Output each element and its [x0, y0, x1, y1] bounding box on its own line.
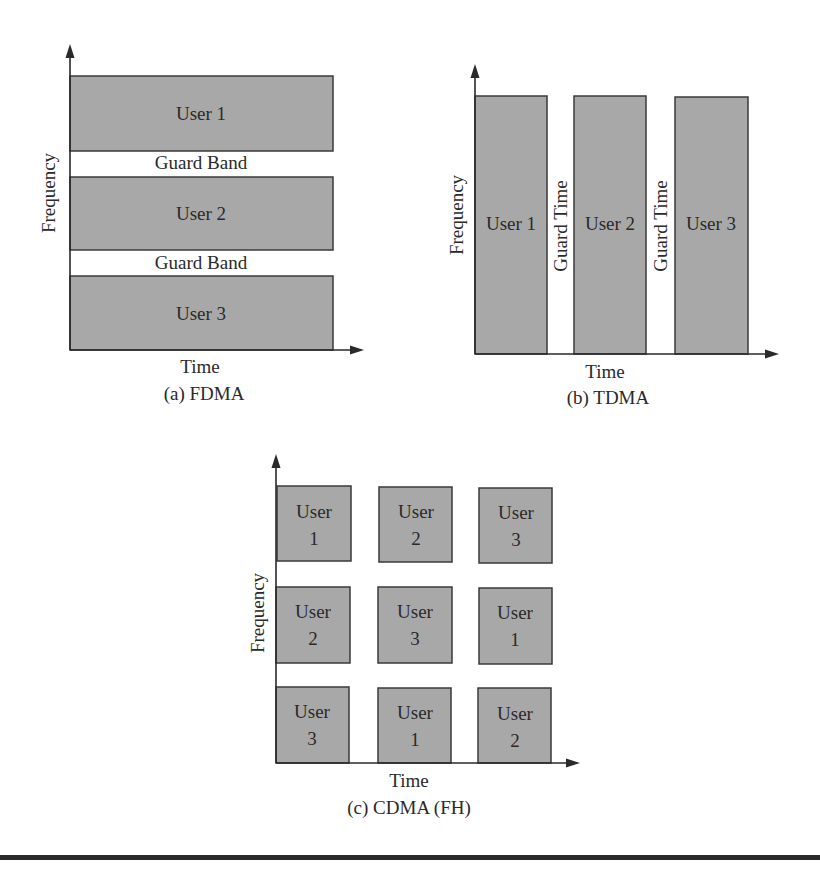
fdma-user3-label: User 3: [176, 303, 226, 324]
cdma-r2c3-num: 1: [510, 629, 520, 650]
fdma-caption: (a) FDMA: [164, 383, 245, 405]
cdma-cell-r2c3: [479, 588, 552, 664]
cdma-cell-r1c2: [379, 487, 452, 562]
cdma-r1c1-num: 1: [309, 528, 319, 549]
cdma-r2c3-word: User: [497, 602, 534, 623]
fdma-user2-label: User 2: [176, 203, 226, 224]
multiple-access-figure: User 1 Guard Band User 2 Guard Band User…: [0, 0, 820, 871]
cdma-cell-r2c1: [276, 587, 350, 663]
fdma-x-arrow-icon: [350, 346, 364, 355]
bottom-rule: [0, 855, 820, 860]
cdma-r1c1-word: User: [296, 501, 333, 522]
tdma-guard-time-2-label: Guard Time: [650, 180, 671, 271]
tdma-user2-label: User 2: [585, 213, 635, 234]
cdma-r2c2-word: User: [397, 601, 434, 622]
cdma-cell-r3c1: [276, 687, 349, 763]
cdma-r2c2-num: 3: [410, 628, 420, 649]
cdma-cell-r2c2: [378, 587, 452, 663]
fdma-x-axis-label: Time: [180, 356, 219, 377]
cdma-r1c3-word: User: [498, 502, 535, 523]
panel-tdma: User 1 User 2 User 3 Guard Time Guard Ti…: [446, 64, 779, 409]
tdma-caption: (b) TDMA: [567, 387, 650, 409]
panel-cdma: User 1 User 2 User 3 User 2 User 3 User …: [247, 454, 580, 819]
cdma-r3c2-word: User: [397, 702, 434, 723]
tdma-y-axis-label: Frequency: [446, 174, 467, 255]
cdma-r1c2-num: 2: [411, 528, 421, 549]
cdma-cell-r1c3: [479, 488, 552, 563]
fdma-guard-band-2-label: Guard Band: [155, 252, 248, 273]
tdma-user1-label: User 1: [486, 213, 536, 234]
fdma-y-arrow-icon: [66, 44, 75, 58]
cdma-r3c1-word: User: [294, 701, 331, 722]
cdma-r2c1-word: User: [295, 601, 332, 622]
cdma-cell-r1c1: [277, 486, 351, 561]
fdma-guard-band-1-label: Guard Band: [155, 152, 248, 173]
cdma-r1c2-word: User: [398, 501, 435, 522]
cdma-x-arrow-icon: [566, 759, 580, 768]
cdma-r1c3-num: 3: [511, 529, 521, 550]
tdma-x-arrow-icon: [765, 350, 779, 359]
cdma-r3c2-num: 1: [410, 729, 420, 750]
cdma-r3c3-num: 2: [510, 730, 520, 751]
cdma-r3c3-word: User: [497, 703, 534, 724]
tdma-user3-label: User 3: [686, 213, 736, 234]
cdma-cell-r3c2: [378, 688, 451, 763]
cdma-y-arrow-icon: [272, 454, 281, 468]
cdma-cell-r3c3: [478, 688, 551, 763]
tdma-x-axis-label: Time: [585, 361, 624, 382]
fdma-y-axis-label: Frequency: [38, 152, 59, 233]
cdma-x-axis-label: Time: [389, 770, 428, 791]
cdma-r2c1-num: 2: [308, 628, 318, 649]
cdma-r3c1-num: 3: [307, 728, 317, 749]
fdma-user1-label: User 1: [176, 103, 226, 124]
cdma-y-axis-label: Frequency: [247, 572, 268, 653]
cdma-caption: (c) CDMA (FH): [347, 797, 471, 819]
tdma-y-arrow-icon: [471, 64, 480, 78]
panel-fdma: User 1 Guard Band User 2 Guard Band User…: [38, 44, 364, 405]
tdma-guard-time-1-label: Guard Time: [550, 180, 571, 271]
